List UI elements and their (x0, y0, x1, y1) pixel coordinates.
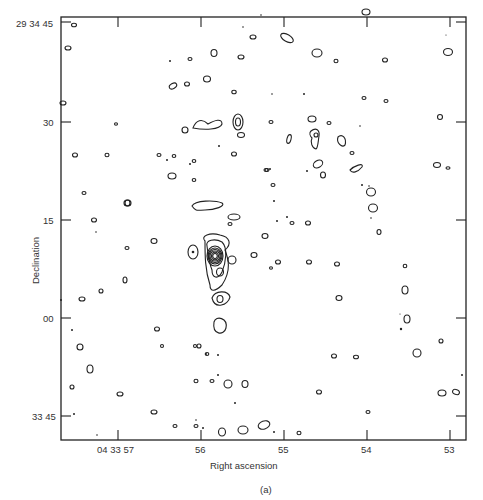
x-ticks (118, 17, 450, 440)
x-axis-label: Right ascension (210, 460, 278, 471)
x-tick-label: 04 33 57 (97, 444, 134, 455)
y-tick-label: 00 (43, 313, 54, 324)
central-source-contours (188, 201, 240, 333)
contour-map (0, 0, 483, 500)
point-sources (60, 14, 463, 436)
y-tick-label: 29 34 45 (16, 18, 53, 29)
y-tick-label: 15 (43, 215, 54, 226)
plot-frame (61, 17, 466, 440)
x-tick-label: 56 (195, 444, 206, 455)
y-tick-label: 33 45 (32, 411, 56, 422)
figure-caption: (a) (260, 484, 272, 495)
noise-contours (60, 9, 460, 436)
y-ticks (61, 22, 466, 416)
x-tick-label: 55 (278, 444, 289, 455)
y-tick-label: 30 (43, 117, 54, 128)
x-tick-label: 53 (444, 444, 455, 455)
x-tick-label: 54 (361, 444, 372, 455)
y-axis-label: Declination (30, 221, 41, 301)
